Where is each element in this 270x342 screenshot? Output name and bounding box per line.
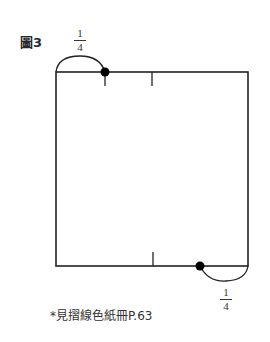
caption-reference: *見摺線色紙冊P.63	[50, 306, 152, 323]
fold-diagram	[0, 0, 270, 342]
top-point-dot	[101, 68, 110, 77]
paper-square	[56, 72, 248, 266]
bottom-quarter-arc	[200, 266, 248, 281]
top-quarter-arc	[56, 56, 105, 72]
bottom-point-dot	[196, 262, 205, 271]
